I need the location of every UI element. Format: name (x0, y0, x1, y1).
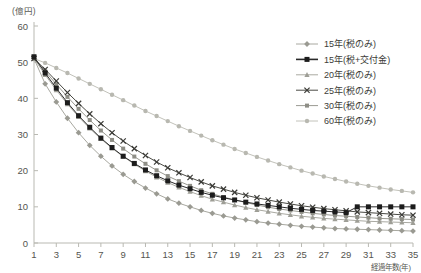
series-marker (221, 213, 227, 219)
chart-container: (億円)010203040506013579111315171921232527… (0, 0, 421, 273)
series-marker (88, 82, 92, 86)
series-marker (354, 226, 360, 232)
series-marker (232, 197, 237, 202)
legend-label-0: 15年(税のみ) (324, 38, 376, 49)
y-tick-label: 10 (17, 201, 28, 212)
x-tick-label: 27 (319, 249, 330, 260)
series-marker (221, 187, 226, 192)
legend-label-4: 30年(税のみ) (324, 100, 376, 111)
series-marker (54, 86, 59, 91)
x-tick-label: 7 (98, 249, 103, 260)
series-marker (110, 145, 115, 150)
series-marker (176, 200, 182, 206)
series-marker (321, 209, 326, 214)
legend-marker-0 (304, 41, 310, 47)
x-tick-label: 19 (229, 249, 240, 260)
series-marker (333, 177, 337, 181)
series-marker (99, 129, 103, 133)
series-marker (187, 204, 193, 210)
series-marker (154, 114, 158, 118)
series-marker (277, 162, 281, 166)
series-marker (65, 95, 69, 99)
series-marker (389, 187, 393, 191)
series-marker (377, 227, 383, 233)
series-marker (143, 109, 147, 113)
series-marker (176, 170, 181, 175)
series-marker (266, 158, 270, 162)
series-marker (121, 154, 126, 159)
series-marker (121, 147, 125, 151)
x-tick-label: 9 (121, 249, 126, 260)
legend-marker-1 (305, 57, 310, 62)
series-marker (88, 118, 92, 122)
series-marker (243, 217, 249, 223)
series-marker (322, 174, 326, 178)
legend-marker-5 (305, 119, 309, 123)
series-marker (221, 195, 226, 200)
series-marker (288, 165, 292, 169)
series-marker (76, 76, 80, 80)
series-marker (143, 162, 147, 166)
series-marker (255, 155, 259, 159)
x-tick-label: 11 (141, 249, 151, 260)
series-marker (143, 167, 148, 172)
series-marker (155, 168, 159, 172)
series-marker (344, 210, 349, 215)
y-axis-unit-label: (億円) (12, 6, 36, 16)
series-marker (388, 227, 394, 233)
x-tick-label: 17 (207, 249, 218, 260)
series-marker (109, 130, 114, 135)
series-marker (76, 113, 81, 118)
series-marker (400, 217, 404, 221)
y-tick-label: 40 (17, 93, 28, 104)
legend-marker-4 (305, 104, 309, 108)
series-marker (110, 138, 114, 142)
series-marker (177, 124, 181, 128)
series-marker (299, 223, 305, 229)
series-marker (53, 99, 59, 105)
series-marker (43, 61, 47, 65)
series-marker (165, 165, 170, 170)
series-marker (377, 185, 381, 189)
series-marker (132, 103, 136, 107)
series-marker (399, 228, 405, 234)
series-marker (187, 175, 192, 180)
series-marker (166, 119, 170, 123)
legend-label-1: 15年(税+交付金) (324, 54, 390, 65)
series-marker (221, 142, 225, 146)
series-marker (199, 190, 204, 195)
series-marker (366, 204, 371, 209)
legend-label-5: 60年(税のみ) (324, 115, 376, 126)
y-tick-label: 0 (23, 238, 28, 249)
series-marker (410, 228, 416, 234)
series-marker (232, 215, 238, 221)
series-marker (310, 171, 314, 175)
series-marker (366, 227, 372, 233)
series-marker (266, 203, 271, 208)
series-marker (277, 204, 282, 209)
y-tick-label: 30 (17, 129, 28, 140)
series-marker (188, 129, 192, 133)
series-marker (65, 100, 70, 105)
series-marker (132, 146, 137, 151)
series-marker (299, 168, 303, 172)
series-marker (54, 66, 58, 70)
line-chart: (億円)010203040506013579111315171921232527… (0, 0, 421, 273)
series-marker (366, 216, 370, 220)
x-tick-label: 35 (408, 249, 419, 260)
series-marker (344, 179, 348, 183)
series-marker (77, 107, 81, 111)
x-tick-label: 13 (162, 249, 173, 260)
series-marker (143, 153, 148, 158)
series-marker (411, 217, 415, 221)
series-marker (199, 133, 203, 137)
series-marker (132, 155, 136, 159)
series-marker (165, 196, 171, 202)
series-marker (411, 190, 415, 194)
series-marker (388, 204, 393, 209)
series-marker (154, 159, 159, 164)
series-marker (321, 225, 327, 231)
series-marker (332, 226, 338, 232)
series-marker (154, 191, 160, 197)
series-marker (98, 136, 103, 141)
